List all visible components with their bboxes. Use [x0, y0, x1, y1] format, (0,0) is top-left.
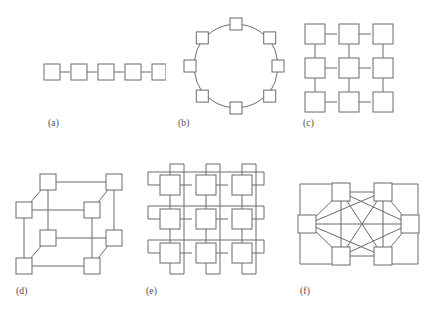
- node: [339, 24, 359, 44]
- node: [84, 202, 100, 218]
- mesh-nodes: [305, 24, 393, 112]
- panel-caption-b: (b): [178, 118, 190, 128]
- node: [232, 243, 252, 263]
- edge-arc: [242, 97, 264, 107]
- node: [339, 58, 359, 78]
- hypercube-edges: [24, 182, 114, 266]
- node: [106, 174, 122, 190]
- panel-caption-e: (e): [146, 286, 157, 296]
- node: [16, 258, 32, 274]
- panel-mesh-2d: [303, 22, 403, 114]
- torus-nodes: [160, 175, 252, 263]
- node: [230, 18, 242, 30]
- panel-caption-c: (c): [303, 118, 314, 128]
- edge-arc: [208, 25, 230, 35]
- node: [264, 32, 276, 44]
- node: [125, 64, 141, 80]
- edge-arc: [242, 25, 264, 35]
- node: [232, 175, 252, 195]
- node: [373, 58, 393, 78]
- node: [373, 24, 393, 44]
- panel-linear-array: [40, 52, 166, 92]
- fully-connected-edges: [300, 184, 418, 264]
- node: [196, 90, 208, 102]
- node: [401, 215, 419, 233]
- node: [160, 209, 180, 229]
- node: [160, 243, 180, 263]
- node: [374, 183, 392, 201]
- node: [40, 174, 56, 190]
- node: [196, 32, 208, 44]
- node: [298, 215, 316, 233]
- panel-caption-d: (d): [16, 286, 28, 296]
- hypercube-nodes: [16, 174, 122, 274]
- node: [332, 183, 350, 201]
- node: [305, 24, 325, 44]
- node: [106, 230, 122, 246]
- node: [184, 60, 196, 72]
- node: [374, 247, 392, 265]
- node: [196, 175, 216, 195]
- ring-nodes: [184, 18, 284, 114]
- panel-fully-connected: [296, 176, 422, 272]
- node: [339, 92, 359, 112]
- panel-ring: [180, 14, 292, 118]
- panel-torus: [142, 158, 270, 280]
- node: [84, 258, 100, 274]
- node: [44, 64, 60, 80]
- node: [152, 64, 166, 80]
- node: [98, 64, 114, 80]
- panel-caption-a: (a): [48, 118, 59, 128]
- node: [230, 102, 242, 114]
- node: [264, 90, 276, 102]
- topology-figure: (a) (b): [0, 0, 436, 314]
- edge-arc: [195, 72, 202, 91]
- panel-caption-f: (f): [300, 286, 310, 296]
- edge-arc: [271, 72, 278, 91]
- edge-arc: [208, 97, 230, 107]
- node: [196, 243, 216, 263]
- node: [332, 247, 350, 265]
- node: [373, 92, 393, 112]
- node: [232, 209, 252, 229]
- node: [40, 230, 56, 246]
- node: [305, 58, 325, 78]
- node: [160, 175, 180, 195]
- node: [16, 202, 32, 218]
- node: [196, 209, 216, 229]
- node: [272, 60, 284, 72]
- panel-hypercube: [14, 168, 124, 280]
- node: [71, 64, 87, 80]
- node: [305, 92, 325, 112]
